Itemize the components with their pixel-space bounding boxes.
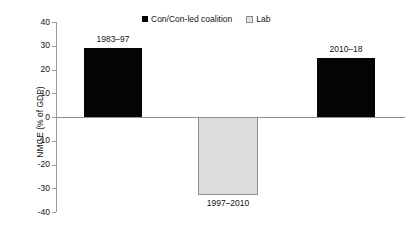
y-tick-mark [52, 46, 56, 47]
y-tick-label: -20 [38, 159, 50, 169]
y-tick-mark [52, 22, 56, 23]
y-tick-mark [52, 165, 56, 166]
bar-2010-18 [317, 58, 375, 117]
y-tick-label: 10 [41, 88, 50, 98]
y-tick-mark [52, 188, 56, 189]
y-tick-mark [52, 93, 56, 94]
y-tick-label: -30 [38, 183, 50, 193]
y-tick-label: -10 [38, 135, 50, 145]
bar-chart: Con/Con-led coalition Lab NMGE (% of GDP… [0, 0, 414, 230]
y-tick-mark [52, 117, 56, 118]
y-tick-mark [52, 141, 56, 142]
y-tick-label: 40 [41, 17, 50, 27]
bar-1983-97 [84, 48, 142, 117]
y-tick-label: 20 [41, 64, 50, 74]
bar-label-1983-97: 1983–97 [84, 34, 142, 44]
bar-1997-2010 [198, 117, 258, 195]
y-tick-mark [52, 70, 56, 71]
plot-area: 40 30 20 10 0 -10 -20 -30 [56, 22, 405, 212]
bar-label-1997-2010: 1997–2010 [193, 198, 263, 208]
y-tick-label: -40 [38, 207, 50, 217]
y-tick-mark [52, 212, 56, 213]
bar-label-2010-18: 2010–18 [317, 44, 375, 54]
y-tick-label: 30 [41, 40, 50, 50]
y-tick-label: 0 [45, 112, 50, 122]
